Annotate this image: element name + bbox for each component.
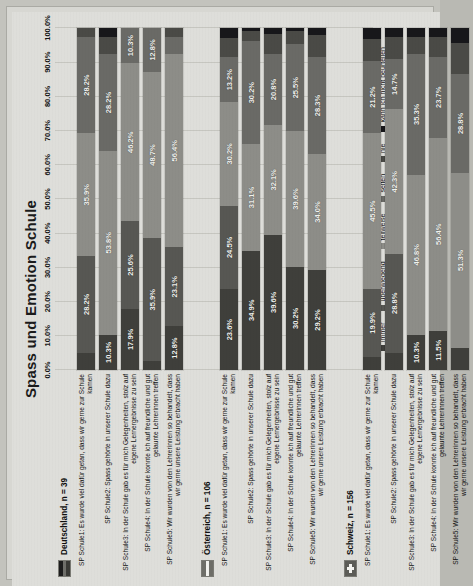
bar-segment <box>220 38 238 57</box>
category-label: SP Schule2: Spass gehörte in unserer Sch… <box>385 374 403 576</box>
x-tick-label: 10.0% <box>43 325 52 346</box>
bar-segment: 28.2% <box>77 37 95 133</box>
group-name: Schweiz, n = 156 <box>346 490 355 555</box>
x-axis-ticks: 0.0%10.0%20.0%30.0%40.0%50.0%60.0%70.0%8… <box>43 28 55 370</box>
bar-segment <box>363 39 381 61</box>
bar-value-label: 32.1% <box>269 169 278 190</box>
bar-value-label: 19.9% <box>368 312 377 333</box>
bar-value-label: 30.2% <box>225 143 234 164</box>
bar-segment <box>363 357 381 370</box>
bar-value-label: 56.4% <box>434 224 443 245</box>
bar-segment: 28.2% <box>99 54 117 150</box>
bar-segment: 35.3% <box>407 54 425 175</box>
bar-segment <box>99 37 117 54</box>
bar-value-label: 45.5% <box>368 201 377 222</box>
bar-segment <box>385 37 403 59</box>
bar-value-label: 35.3% <box>412 104 421 125</box>
bar-segment: 53.8% <box>99 151 117 335</box>
category-label: SP Schule5: Wir wurden von den Lehrerinn… <box>165 374 183 576</box>
bar-segment: 56.4% <box>429 138 447 331</box>
x-tick-label: 100.0% <box>43 15 52 40</box>
group-spacer <box>187 374 198 576</box>
bar-value-label: 28.2% <box>82 294 91 315</box>
bar-value-label: 25.5% <box>291 77 300 98</box>
bar-segment <box>363 28 381 39</box>
category-label-text: SP Schule1: Es wurde viel dafür getan, d… <box>221 374 236 574</box>
bar-segment <box>407 37 425 54</box>
bar-segment: 23.7% <box>429 57 447 138</box>
category-label: SP Schule2: Spass gehörte in unserer Sch… <box>242 374 260 576</box>
bar-value-label: 17.9% <box>126 329 135 350</box>
plot-area: 0.0%10.0%20.0%30.0%40.0%50.0%60.0%70.0%8… <box>43 28 373 370</box>
bar-segment: 11.5% <box>429 331 447 370</box>
bar-value-label: 30.2% <box>291 308 300 329</box>
bar-value-label: 51.3% <box>456 250 465 271</box>
chart-title: Spass und Emotion Schule <box>22 22 39 576</box>
stacked-bar: 10.3%53.8%28.2% <box>99 28 117 370</box>
category-label: SP Schule3: In der Schule gab es für mic… <box>407 374 425 576</box>
x-tick-label: 40.0% <box>43 223 52 244</box>
stacked-bar: 51.3%28.8% <box>451 28 469 370</box>
bar-segment: 39.6% <box>286 131 304 266</box>
bar-segment: 23.6% <box>220 289 238 370</box>
bar-segment <box>242 31 260 41</box>
stacked-bar: 30.2%39.6%25.5% <box>286 28 304 370</box>
bar-value-label: 10.3% <box>126 35 135 56</box>
bar-segment: 30.2% <box>220 102 238 205</box>
category-label: SP Schule1: Es wurde viel dafür getan, d… <box>220 374 238 576</box>
group-spacer <box>187 28 198 370</box>
bar-value-label: 12.8% <box>148 39 157 60</box>
bar-value-label: 12.8% <box>170 337 179 358</box>
stacked-bar: 10.3%46.8%35.3% <box>407 28 425 370</box>
bar-segment <box>220 28 238 38</box>
x-tick-label: 0.0% <box>43 361 52 378</box>
group-spacer <box>330 28 341 370</box>
bar-value-label: 29.2% <box>313 309 322 330</box>
bar-value-label: 39.6% <box>291 188 300 209</box>
x-tick-label: 50.0% <box>43 188 52 209</box>
paper-background: Spass und Emotion Schule 0.0%10.0%20.0%3… <box>6 6 434 580</box>
bar-segment: 28.2% <box>77 256 95 352</box>
category-label-text: SP Schule2: Spass gehörte in unserer Sch… <box>247 374 255 524</box>
stacked-bar: 28.8%42.3%14.7% <box>385 28 403 370</box>
bar-value-label: 28.8% <box>390 293 399 314</box>
x-tick-label: 30.0% <box>43 257 52 278</box>
x-tick-label: 60.0% <box>43 154 52 175</box>
category-label: SP Schule4: In der Schule konnte ich auf… <box>143 374 161 576</box>
bar-segment <box>77 28 95 37</box>
category-label-column: Deutschland, n = 39SP Schule1: Es wurde … <box>55 374 473 576</box>
stacked-bar: 35.9%48.7%12.8% <box>143 28 161 370</box>
category-label-text: SP Schule5: Wir wurden von den Lehrerinn… <box>309 374 324 574</box>
bar-segment: 20.8% <box>264 54 282 125</box>
bar-segment: 30.2% <box>286 267 304 370</box>
bar-segment: 45.5% <box>363 133 381 289</box>
group-header-spacer <box>341 28 359 370</box>
bar-value-label: 20.8% <box>269 79 278 100</box>
group-header-1: Deutschland, n = 39 <box>55 374 73 576</box>
bar-segment: 12.8% <box>165 326 183 370</box>
rotated-chart-canvas: Spass und Emotion Schule 0.0%10.0%20.0%3… <box>12 12 440 586</box>
category-label: SP Schule5: Wir wurden von den Lehrerinn… <box>308 374 326 576</box>
bar-segment: 46.2% <box>121 63 139 221</box>
bar-segment <box>165 37 183 54</box>
bar-value-label: 14.7% <box>390 74 399 95</box>
bar-segment <box>451 348 469 370</box>
bar-segment: 28.8% <box>451 74 469 172</box>
bar-segment: 17.9% <box>121 309 139 370</box>
group-header-3: Schweiz, n = 156 <box>341 374 359 576</box>
bar-segment: 34.0% <box>308 154 326 270</box>
bar-segment <box>385 353 403 370</box>
category-label: SP Schule2: Spass gehörte in unserer Sch… <box>99 374 117 576</box>
bar-value-label: 13.2% <box>225 69 234 90</box>
bar-value-label: 30.2% <box>247 82 256 103</box>
bar-value-label: 53.8% <box>104 232 113 253</box>
bar-segment: 23.1% <box>165 247 183 326</box>
bar-segment: 31.1% <box>242 144 260 250</box>
bar-segment: 25.5% <box>286 44 304 131</box>
bar-segment <box>308 35 326 58</box>
category-label-text: SP Schule5: Wir wurden von den Lehrerinn… <box>166 374 181 574</box>
bar-segment <box>429 37 447 57</box>
bar-segment: 24.5% <box>220 206 238 290</box>
bar-segment: 56.4% <box>165 54 183 247</box>
bar-value-label: 10.3% <box>104 342 113 363</box>
